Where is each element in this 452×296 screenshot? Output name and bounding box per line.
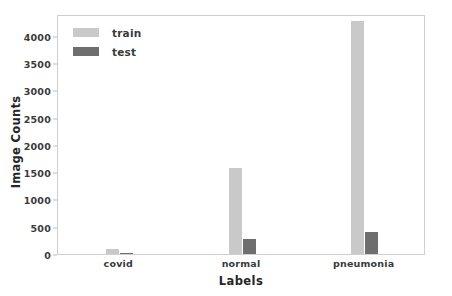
y-tick-label: 2500 xyxy=(24,113,51,124)
y-tick-label: 3500 xyxy=(24,59,51,70)
legend-swatch-train xyxy=(73,28,99,37)
legend-label-train: train xyxy=(112,27,141,39)
legend-item-test: test xyxy=(73,42,193,61)
legend-label-test: test xyxy=(112,46,136,58)
y-tick-label: 0 xyxy=(44,250,51,261)
bar-normal-test xyxy=(243,239,256,254)
x-tick-label: pneumonia xyxy=(333,258,394,269)
x-axis-title: Labels xyxy=(57,274,425,288)
y-tick-label: 1500 xyxy=(24,168,51,179)
bar-pneumonia-train xyxy=(351,21,364,254)
legend: traintest xyxy=(73,23,193,61)
bar-covid-test xyxy=(120,253,133,254)
y-axis-title: Image Counts xyxy=(9,62,23,222)
y-tick-label: 4000 xyxy=(24,31,51,42)
y-tick-label: 500 xyxy=(31,222,51,233)
y-tick-label: 2000 xyxy=(24,140,51,151)
legend-swatch-test xyxy=(73,47,99,56)
bar-chart-figure: 05001000150020002500300035004000 Image C… xyxy=(0,0,452,296)
x-tick-label: normal xyxy=(222,258,261,269)
legend-item-train: train xyxy=(73,23,193,42)
y-tick-label: 3000 xyxy=(24,86,51,97)
bar-covid-train xyxy=(106,249,119,254)
bar-pneumonia-test xyxy=(365,232,378,254)
x-axis: covidnormalpneumonia xyxy=(57,256,425,274)
y-tick-label: 1000 xyxy=(24,195,51,206)
x-tick-label: covid xyxy=(104,258,133,269)
bar-normal-train xyxy=(229,168,242,254)
